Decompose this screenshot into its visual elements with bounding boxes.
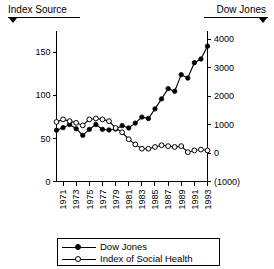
series-line bbox=[57, 119, 208, 153]
legend-item-index-of-social-health: Index of Social Health bbox=[62, 253, 215, 265]
data-point-marker bbox=[179, 144, 184, 149]
y2-tick-label: 0 bbox=[214, 148, 219, 158]
x-tick-label: 1977 bbox=[98, 190, 108, 210]
data-point-marker bbox=[100, 127, 104, 131]
data-point-marker bbox=[153, 145, 158, 150]
data-point-marker bbox=[67, 119, 72, 124]
x-tick-label: 1973 bbox=[71, 190, 81, 210]
y-tick-label: 0 bbox=[45, 177, 50, 187]
legend-item-dow-jones: Dow Jones bbox=[62, 241, 215, 253]
chart-legend: Dow Jones Index of Social Health bbox=[57, 238, 220, 266]
data-point-marker bbox=[172, 89, 176, 93]
data-point-marker bbox=[61, 117, 66, 122]
data-point-marker bbox=[74, 127, 78, 131]
x-tick-label: 1987 bbox=[163, 190, 173, 210]
x-tick-label: 1983 bbox=[137, 190, 147, 210]
legend-marker-open-circle-icon bbox=[62, 253, 96, 265]
data-point-marker bbox=[80, 123, 85, 128]
y-axis-ticks: 050100150 bbox=[35, 47, 56, 186]
data-point-marker bbox=[139, 146, 144, 151]
y2-tick-label: (1000) bbox=[214, 177, 240, 187]
x-tick-label: 1993 bbox=[203, 190, 213, 210]
data-point-marker bbox=[133, 121, 137, 125]
data-point-marker bbox=[120, 123, 124, 127]
data-point-marker bbox=[87, 127, 91, 131]
y-tick-label: 150 bbox=[35, 47, 50, 57]
x-tick-label: 1975 bbox=[85, 190, 95, 210]
data-point-marker bbox=[93, 116, 98, 121]
y-tick-label: 100 bbox=[35, 90, 50, 100]
legend-label-dow-jones: Dow Jones bbox=[100, 241, 147, 253]
data-point-marker bbox=[186, 76, 190, 80]
x-tick-label: 1989 bbox=[177, 190, 187, 210]
y-tick-label: 50 bbox=[40, 134, 50, 144]
data-point-marker bbox=[146, 116, 150, 120]
data-series-group bbox=[54, 44, 210, 155]
legend-marker-filled-circle-icon bbox=[62, 241, 96, 253]
data-point-marker bbox=[74, 120, 79, 125]
data-point-marker bbox=[133, 142, 138, 147]
data-point-marker bbox=[159, 97, 163, 101]
data-point-marker bbox=[127, 126, 131, 130]
data-point-marker bbox=[185, 150, 190, 155]
x-tick-label: 1971 bbox=[58, 190, 68, 210]
data-point-marker bbox=[107, 119, 112, 124]
data-point-marker bbox=[100, 117, 105, 122]
data-point-marker bbox=[192, 148, 197, 153]
y2-tick-label: 4000 bbox=[214, 34, 234, 44]
x-tick-label: 1985 bbox=[150, 190, 160, 210]
plot-area: 050100150 (1000)01000200030004000 197119… bbox=[0, 0, 274, 238]
data-point-marker bbox=[166, 144, 171, 149]
data-point-marker bbox=[107, 128, 111, 132]
data-point-marker bbox=[120, 130, 125, 135]
y2-axis-ticks: (1000)01000200030004000 bbox=[208, 34, 241, 186]
data-point-marker bbox=[159, 143, 164, 148]
data-point-marker bbox=[146, 146, 151, 151]
data-point-marker bbox=[199, 57, 203, 61]
legend-label-index-of-social-health: Index of Social Health bbox=[100, 253, 192, 265]
x-tick-label: 1979 bbox=[111, 190, 121, 210]
data-point-marker bbox=[166, 86, 170, 90]
data-point-marker bbox=[54, 128, 58, 132]
y2-tick-label: 1000 bbox=[214, 120, 234, 130]
data-point-marker bbox=[87, 117, 92, 122]
data-point-marker bbox=[199, 147, 204, 152]
data-point-marker bbox=[172, 145, 177, 150]
x-tick-label: 1991 bbox=[190, 190, 200, 210]
data-point-marker bbox=[54, 120, 59, 125]
axes-group bbox=[57, 31, 208, 182]
series-line bbox=[57, 46, 208, 135]
x-tick-label: 1981 bbox=[124, 190, 134, 210]
chart-figure: Index Source Dow Jones 050100150 (1000)0… bbox=[0, 0, 274, 269]
data-point-marker bbox=[61, 125, 65, 129]
data-point-marker bbox=[81, 133, 85, 137]
data-point-marker bbox=[179, 72, 183, 76]
data-point-marker bbox=[113, 126, 118, 131]
data-point-marker bbox=[126, 137, 131, 142]
y2-tick-label: 3000 bbox=[214, 63, 234, 73]
data-point-marker bbox=[153, 107, 157, 111]
x-axis-ticks: 1971197319751977197919811983198519871989… bbox=[58, 182, 212, 210]
data-point-marker bbox=[94, 122, 98, 126]
data-point-marker bbox=[205, 148, 210, 153]
data-point-marker bbox=[192, 60, 196, 64]
data-point-marker bbox=[140, 115, 144, 119]
y2-tick-label: 2000 bbox=[214, 91, 234, 101]
data-point-marker bbox=[205, 44, 209, 48]
